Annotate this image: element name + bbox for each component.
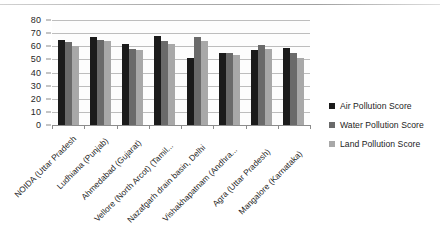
legend-swatch-icon	[329, 122, 335, 128]
bar-group	[154, 20, 175, 125]
x-axis-tick-mark	[52, 125, 53, 129]
y-axis-tick-mark	[46, 98, 51, 99]
bar	[219, 53, 226, 125]
plot-area	[52, 20, 310, 125]
y-axis-tick-label: 10	[31, 107, 41, 116]
bar-group	[58, 20, 79, 125]
y-axis-tick-mark	[46, 33, 51, 34]
y-axis-tick-mark	[46, 59, 51, 60]
y-axis-tick-label: 30	[31, 81, 41, 90]
x-axis-tick-mark	[310, 125, 311, 129]
x-axis-tick-mark	[181, 125, 182, 129]
bar	[122, 44, 129, 125]
bar	[187, 58, 194, 125]
y-axis-tick-labels: 80706050403020100	[0, 20, 48, 125]
x-axis-category-label: Vishakhapatnam (Andhra...	[92, 145, 240, 237]
x-axis-tick-mark	[149, 125, 150, 129]
y-axis-tick-label: 80	[31, 16, 41, 25]
y-axis-tick-mark	[46, 20, 51, 21]
bar	[226, 53, 233, 125]
bar	[201, 41, 208, 125]
x-axis-category-label: Mangalore (Karnataka)	[156, 150, 304, 237]
legend-swatch-icon	[329, 103, 335, 109]
bar	[290, 53, 297, 125]
bar	[65, 42, 72, 125]
legend-item-label: Land Pollution Score	[340, 139, 420, 149]
legend-item[interactable]: Air Pollution Score	[329, 96, 437, 115]
y-axis-tick-mark	[46, 85, 51, 86]
bar-group	[90, 20, 111, 125]
bar	[154, 36, 161, 125]
pollution-score-bar-chart: 80706050403020100 NOIDA (Uttar PradeshLu…	[0, 0, 440, 237]
bar	[161, 41, 168, 125]
y-axis-tick-label: 50	[31, 55, 41, 64]
bar-series-layer	[52, 20, 310, 125]
bar-group	[219, 20, 240, 125]
bar	[194, 37, 201, 125]
y-axis-tick-label: 40	[31, 68, 41, 77]
x-axis-tick-mark	[278, 125, 279, 129]
y-axis-tick-mark	[46, 72, 51, 73]
legend-item-label: Air Pollution Score	[340, 101, 412, 111]
x-axis-tick-mark	[117, 125, 118, 129]
bar-group	[122, 20, 143, 125]
chart-legend: Air Pollution ScoreWater Pollution Score…	[329, 96, 437, 153]
bar	[97, 40, 104, 125]
y-axis-tick-mark	[46, 125, 51, 126]
bar-group	[187, 20, 208, 125]
x-axis-category-label: Ludhiana (Punjab)	[0, 137, 111, 237]
y-axis-tick-label: 60	[31, 42, 41, 51]
bar	[265, 49, 272, 125]
bar	[168, 44, 175, 125]
y-axis-tick-label: 0	[36, 121, 41, 130]
legend-item-label: Water Pollution Score	[340, 120, 424, 130]
bar-group	[251, 20, 272, 125]
legend-item[interactable]: Land Pollution Score	[329, 134, 437, 153]
bar	[58, 40, 65, 125]
x-axis-category-label: Nazafgarh drain basin, Delhi	[60, 143, 208, 237]
x-axis-category-label: Agra (Uttar Pradesh)	[124, 148, 272, 237]
x-axis-category-label: Ahmedabad (Gujarat)	[0, 139, 143, 237]
bar-group	[283, 20, 304, 125]
bar	[136, 50, 143, 125]
bar	[283, 48, 290, 125]
y-axis-tick-label: 20	[31, 94, 41, 103]
legend-swatch-icon	[329, 141, 335, 147]
legend-item[interactable]: Water Pollution Score	[329, 115, 437, 134]
x-axis-category-label: Vellore (North Arcot) (Tamil...	[27, 141, 175, 237]
bar	[233, 55, 240, 125]
x-axis-category-label: NOIDA (Uttar Pradesh	[0, 134, 78, 237]
bar	[129, 49, 136, 125]
bar	[297, 58, 304, 125]
bar	[72, 46, 79, 125]
bar	[104, 41, 111, 125]
y-axis-tick-mark	[46, 111, 51, 112]
y-axis-tick-mark	[46, 46, 51, 47]
bar	[258, 45, 265, 125]
x-axis-tick-mark	[213, 125, 214, 129]
y-axis-tick-label: 70	[31, 29, 41, 38]
x-axis-tick-mark	[84, 125, 85, 129]
bar	[251, 50, 258, 125]
bar	[90, 37, 97, 125]
x-axis-tick-mark	[246, 125, 247, 129]
